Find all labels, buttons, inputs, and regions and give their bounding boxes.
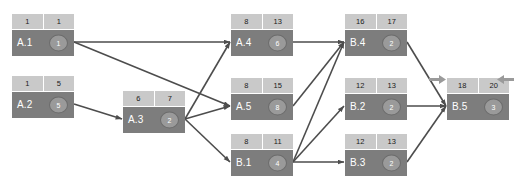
edge-b1-to-b2 <box>293 106 344 162</box>
node-b2[interactable]: 12 13 B.2 2 <box>345 78 407 120</box>
node-a5[interactable]: 8 15 A.5 8 <box>231 78 293 120</box>
node-a3-header: 6 7 <box>123 91 185 107</box>
node-a1-body: A.1 1 <box>12 30 74 56</box>
node-b3-body: B.3 2 <box>345 150 407 176</box>
node-b3-duration: 2 <box>382 155 401 172</box>
node-a4-label: A.4 <box>236 38 252 48</box>
node-a4-late: 13 <box>263 14 294 29</box>
node-a1-early: 1 <box>12 14 44 29</box>
node-a5-label: A.5 <box>236 102 252 112</box>
edge-b3-to-b5 <box>407 106 446 162</box>
node-a1-header: 1 1 <box>12 14 74 30</box>
node-b3-early: 12 <box>345 134 377 149</box>
node-a2-late: 5 <box>44 76 75 91</box>
node-b4-duration: 2 <box>382 35 401 52</box>
node-b1-label: B.1 <box>236 158 252 168</box>
node-b2-header: 12 13 <box>345 78 407 94</box>
node-b4-label: B.4 <box>350 38 366 48</box>
node-a2-label: A.2 <box>17 100 33 110</box>
edge-a2-to-a3 <box>74 104 122 119</box>
node-b4[interactable]: 16 17 B.4 2 <box>345 14 407 56</box>
node-b4-body: B.4 2 <box>345 30 407 56</box>
node-a1-duration: 1 <box>49 35 68 52</box>
node-a4-body: A.4 6 <box>231 30 293 56</box>
node-a1[interactable]: 1 1 A.1 1 <box>12 14 74 56</box>
node-b5-body: B.5 3 <box>447 94 509 120</box>
node-b4-header: 16 17 <box>345 14 407 30</box>
edge-a3-to-b1 <box>185 119 230 162</box>
node-a4-header: 8 13 <box>231 14 293 30</box>
node-a3-late: 7 <box>155 91 186 106</box>
edge-b1-to-b4 <box>293 42 344 162</box>
node-b2-body: B.2 2 <box>345 94 407 120</box>
node-b3-late: 13 <box>377 134 408 149</box>
node-a5-duration: 8 <box>268 99 287 116</box>
node-a3-early: 6 <box>123 91 155 106</box>
edge-a5-to-b4 <box>293 42 344 106</box>
node-a2-body: A.2 5 <box>12 92 74 118</box>
node-a2[interactable]: 1 5 A.2 5 <box>12 76 74 118</box>
node-b3[interactable]: 12 13 B.3 2 <box>345 134 407 176</box>
node-b5-early: 18 <box>447 78 479 93</box>
right-marker-arrow <box>496 74 514 85</box>
node-a4[interactable]: 8 13 A.4 6 <box>231 14 293 56</box>
left-marker-arrow <box>429 74 447 85</box>
node-b1-early: 8 <box>231 134 263 149</box>
node-a2-early: 1 <box>12 76 44 91</box>
node-b4-late: 17 <box>377 14 408 29</box>
node-b2-early: 12 <box>345 78 377 93</box>
node-a5-body: A.5 8 <box>231 94 293 120</box>
network-diagram-canvas: 1 1 A.1 1 1 5 A.2 5 6 7 A.3 2 8 <box>0 0 523 186</box>
node-b2-late: 13 <box>377 78 408 93</box>
node-b1[interactable]: 8 11 B.1 4 <box>231 134 293 176</box>
node-a4-duration: 6 <box>268 35 287 52</box>
node-b1-body: B.1 4 <box>231 150 293 176</box>
node-a5-late: 15 <box>263 78 294 93</box>
node-a3-label: A.3 <box>128 115 144 125</box>
node-b1-late: 11 <box>263 134 294 149</box>
node-a5-early: 8 <box>231 78 263 93</box>
node-b1-duration: 4 <box>268 155 287 172</box>
node-b3-header: 12 13 <box>345 134 407 150</box>
node-a2-duration: 5 <box>49 97 68 114</box>
node-a2-header: 1 5 <box>12 76 74 92</box>
node-b5-duration: 3 <box>484 99 503 116</box>
node-b3-label: B.3 <box>350 158 366 168</box>
node-a3-body: A.3 2 <box>123 107 185 133</box>
node-a3-duration: 2 <box>160 112 179 129</box>
node-b2-duration: 2 <box>382 99 401 116</box>
node-b4-early: 16 <box>345 14 377 29</box>
node-a3[interactable]: 6 7 A.3 2 <box>123 91 185 133</box>
node-b2-label: B.2 <box>350 102 366 112</box>
node-a5-header: 8 15 <box>231 78 293 94</box>
node-b1-header: 8 11 <box>231 134 293 150</box>
node-b5-label: B.5 <box>452 102 468 112</box>
node-a1-late: 1 <box>44 14 75 29</box>
node-a4-early: 8 <box>231 14 263 29</box>
node-a1-label: A.1 <box>17 38 33 48</box>
